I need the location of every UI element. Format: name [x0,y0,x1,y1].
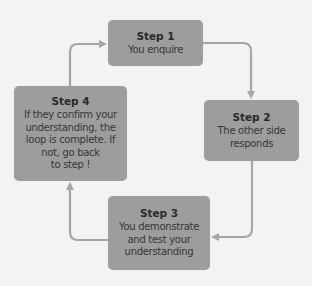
step-4-description: If they confirm your understanding, the … [24,109,117,172]
arrow-step2-to-step3 [213,161,252,237]
arrow-step1-to-step2 [203,43,251,97]
step-2-title: Step 2 [232,111,270,124]
step-1-title: Step 1 [136,30,174,43]
arrow-step4-to-step1 [70,44,105,86]
arrow-step3-to-step4 [70,184,108,240]
feedback-loop-diagram: Step 1 You enquire Step 2 The other side… [0,0,312,286]
step-1-description: You enquire [128,44,183,57]
step-4-box: Step 4 If they confirm your understandin… [14,86,127,181]
step-2-box: Step 2 The other side responds [204,100,299,161]
step-4-title: Step 4 [51,95,89,108]
step-1-box: Step 1 You enquire [108,20,203,66]
step-2-description: The other side responds [218,125,286,150]
step-3-box: Step 3 You demonstrate and test your und… [108,196,210,270]
step-3-description: You demonstrate and test your understand… [119,221,199,259]
step-3-title: Step 3 [140,207,178,220]
